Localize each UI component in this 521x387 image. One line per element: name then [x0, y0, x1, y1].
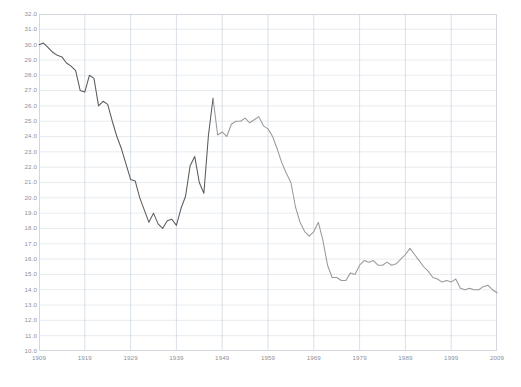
data-series-line: [39, 14, 497, 351]
x-axis-tick-label: 1919: [78, 355, 92, 361]
series-segment-early: [39, 43, 213, 228]
x-axis-tick-label: 1969: [307, 355, 321, 361]
x-axis-tick-label: 1909: [32, 355, 46, 361]
x-axis-tick-label: 1929: [124, 355, 138, 361]
x-axis-tick-label: 1979: [353, 355, 367, 361]
x-axis-tick-label: 1959: [261, 355, 275, 361]
x-axis-tick-label: 1949: [215, 355, 229, 361]
x-axis-tick-label: 1939: [169, 355, 183, 361]
chart-container: 32.031.030.029.028.027.026.025.024.023.0…: [0, 0, 521, 387]
series-segment-late: [213, 98, 497, 293]
x-axis-tick-label: 1989: [398, 355, 412, 361]
x-axis-tick-label: 1999: [444, 355, 458, 361]
x-axis-tick-label: 2009: [490, 355, 504, 361]
